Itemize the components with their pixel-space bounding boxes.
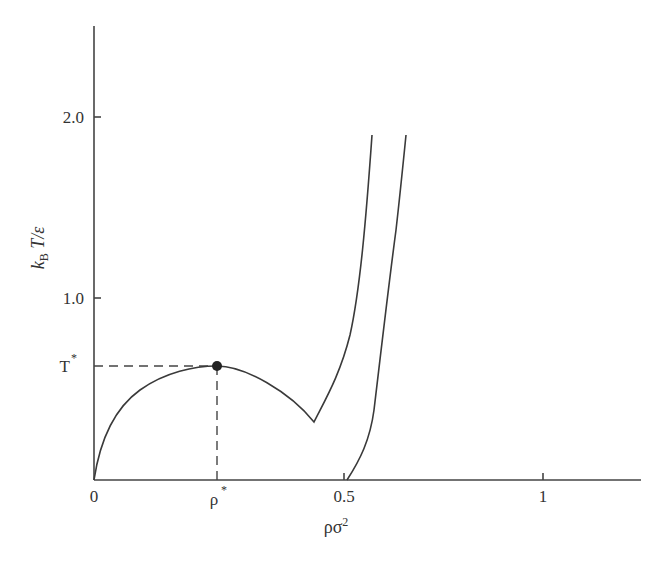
svg-text:kB T/ε: kB T/ε <box>28 226 51 270</box>
y-tick-label-t-star-sup: * <box>71 351 77 365</box>
x-tick-label-rho-star: ρ <box>210 490 218 509</box>
y-tick-label-1: 1.0 <box>63 289 84 308</box>
phase-diagram-chart: 2.0 1.0 T * 0 ρ * 0.5 1 ρσ2 kB T/ε <box>0 0 664 573</box>
x-tick-label-1: 1 <box>539 487 548 506</box>
y-tick-label-t-star: T <box>60 357 71 376</box>
critical-point-marker <box>212 361 222 371</box>
x-tick-label-0: 0 <box>90 487 99 506</box>
y-axis-title: kB T/ε <box>28 226 51 270</box>
x-tick-label-rho-star-sup: * <box>221 483 227 497</box>
coexistence-curve <box>94 135 372 480</box>
y-tick-label-2: 2.0 <box>63 108 84 127</box>
x-tick-label-05: 0.5 <box>333 487 354 506</box>
x-axis-title: ρσ2 <box>324 515 349 537</box>
